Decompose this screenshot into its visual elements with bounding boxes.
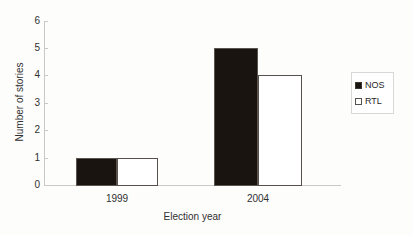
legend-item-nos: NOS: [355, 77, 393, 93]
y-tick-mark-5: [44, 48, 48, 49]
legend: NOS RTL: [351, 72, 394, 114]
y-tick-mark-1: [44, 158, 48, 159]
legend-swatch-rtl-icon: [355, 98, 362, 105]
bar-rtl-1999: [117, 158, 158, 186]
y-tick-mark-4: [44, 75, 48, 76]
bar-nos-2004: [214, 48, 258, 186]
x-axis-title: Election year: [44, 211, 341, 223]
y-tick-mark-2: [44, 130, 48, 131]
legend-label-rtl: RTL: [365, 96, 382, 106]
x-tick-label-1999: 1999: [75, 193, 159, 205]
y-tick-mark-6: [44, 21, 48, 22]
y-tick-label-6: 6: [14, 16, 40, 26]
bar-chart-figure: 6 5 4 3 2 1 0 1999 2004 Election year Nu…: [0, 0, 413, 235]
legend-swatch-nos-icon: [355, 82, 362, 89]
bar-nos-1999: [76, 158, 117, 186]
y-tick-mark-0: [44, 185, 48, 186]
x-tick-label-2004: 2004: [216, 193, 300, 205]
legend-label-nos: NOS: [365, 80, 385, 90]
y-tick-mark-3: [44, 103, 48, 104]
bar-rtl-2004: [258, 75, 302, 186]
legend-item-rtl: RTL: [355, 93, 393, 109]
y-tick-label-0: 0: [14, 180, 40, 190]
y-axis-title: Number of stories: [14, 42, 26, 162]
